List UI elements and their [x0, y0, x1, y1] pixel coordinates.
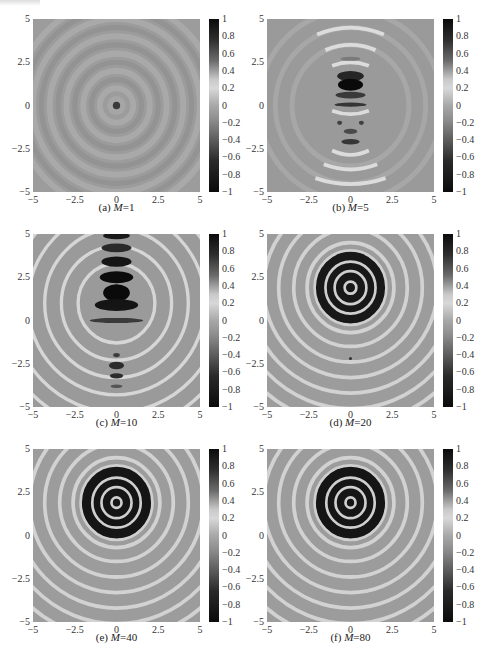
- y-tick-label: 2.5: [236, 487, 264, 497]
- colorbar-tick-label: −0.8: [456, 600, 474, 610]
- x-tick-label: −2.5: [60, 625, 90, 635]
- panel-e: (e) M=40 52.50−2.5−5−5−2.502.5510.80.60.…: [0, 430, 244, 645]
- y-tick-label: 0: [236, 316, 264, 326]
- x-tick-label: −2.5: [294, 195, 324, 205]
- colorbar-tick-label: 0.8: [222, 246, 235, 256]
- y-tick-label: 0: [2, 531, 30, 541]
- colorbar-tick-label: −0.4: [456, 565, 474, 575]
- y-tick-label: 5: [236, 14, 264, 24]
- y-tick-label: 5: [236, 444, 264, 454]
- x-tick-label: −2.5: [60, 195, 90, 205]
- colorbar-tick-label: 0.4: [456, 281, 469, 291]
- colorbar-tick-label: 0.4: [222, 281, 235, 291]
- y-tick-label: 5: [2, 444, 30, 454]
- colorbar-tick-label: 0.8: [456, 31, 469, 41]
- colorbar-tick-label: 0.6: [222, 49, 235, 59]
- x-tick-label: −5: [252, 625, 282, 635]
- colorbar-tick-label: 0.6: [222, 264, 235, 274]
- colorbar-tick-label: −0.2: [456, 548, 474, 558]
- colorbar-tick-label: 0.2: [222, 298, 235, 308]
- colorbar-tick-label: 0.8: [222, 461, 235, 471]
- colorbar-tick-label: −0.4: [456, 135, 474, 145]
- y-tick-label: 0: [2, 316, 30, 326]
- x-tick-label: 0: [102, 625, 132, 635]
- x-tick-label: −2.5: [60, 410, 90, 420]
- colorbar-tick-label: 0.8: [456, 246, 469, 256]
- colorbar-d: [443, 234, 453, 407]
- y-tick-label: −2.5: [236, 144, 264, 154]
- y-tick-label: 2.5: [236, 272, 264, 282]
- panel-b: (b) M=5 52.50−2.5−5−5−2.502.5510.80.60.4…: [234, 0, 478, 215]
- y-tick-label: 5: [2, 229, 30, 239]
- colorbar-tick-label: 1: [456, 14, 461, 24]
- colorbar-tick-label: 0.2: [456, 298, 469, 308]
- x-tick-label: 0: [102, 410, 132, 420]
- y-tick-label: 0: [2, 101, 30, 111]
- colorbar-tick-label: 0: [222, 316, 227, 326]
- colorbar-tick-label: 0.4: [456, 496, 469, 506]
- x-tick-label: −5: [252, 410, 282, 420]
- y-tick-label: −2.5: [236, 359, 264, 369]
- x-tick-label: 2.5: [377, 625, 407, 635]
- x-tick-label: 5: [185, 625, 215, 635]
- x-tick-label: −2.5: [294, 410, 324, 420]
- colorbar-tick-label: 1: [222, 229, 227, 239]
- colorbar-tick-label: −1: [222, 187, 233, 197]
- colorbar-tick-label: 0.2: [222, 83, 235, 93]
- colorbar-tick-label: 0.2: [222, 513, 235, 523]
- x-tick-label: 2.5: [377, 195, 407, 205]
- colorbar-tick-label: 1: [456, 229, 461, 239]
- y-tick-label: 2.5: [236, 57, 264, 67]
- panel-f: (f) M=80 52.50−2.5−5−5−2.502.5510.80.60.…: [234, 430, 478, 645]
- colorbar-f: [443, 449, 453, 622]
- colorbar-tick-label: 0: [456, 101, 461, 111]
- heatmap-b: [267, 19, 434, 192]
- x-tick-label: 0: [336, 625, 366, 635]
- panel-d: (d) M=20 52.50−2.5−5−5−2.502.5510.80.60.…: [234, 215, 478, 430]
- heatmap-e: [33, 449, 200, 622]
- colorbar-tick-label: −0.2: [456, 333, 474, 343]
- panel-c: (c) M=10 52.50−2.5−5−5−2.502.5510.80.60.…: [0, 215, 244, 430]
- colorbar-c: [209, 234, 219, 407]
- colorbar-tick-label: 0.4: [222, 496, 235, 506]
- colorbar-tick-label: 0: [222, 101, 227, 111]
- x-tick-label: −5: [18, 625, 48, 635]
- y-tick-label: 0: [236, 531, 264, 541]
- x-tick-label: −5: [18, 195, 48, 205]
- x-tick-label: −5: [252, 195, 282, 205]
- colorbar-tick-label: 0.6: [456, 49, 469, 59]
- colorbar-tick-label: 0.4: [456, 66, 469, 76]
- colorbar-tick-label: −1: [456, 187, 467, 197]
- x-tick-label: 5: [419, 410, 449, 420]
- y-tick-label: −2.5: [2, 359, 30, 369]
- x-tick-label: 2.5: [143, 625, 173, 635]
- colorbar-tick-label: 0: [222, 531, 227, 541]
- colorbar-tick-label: 0: [456, 531, 461, 541]
- heatmap-a: [33, 19, 200, 192]
- x-tick-label: 0: [102, 195, 132, 205]
- colorbar-tick-label: 0.8: [456, 461, 469, 471]
- colorbar-tick-label: −0.4: [456, 350, 474, 360]
- y-tick-label: 2.5: [2, 272, 30, 282]
- x-tick-label: 5: [185, 410, 215, 420]
- colorbar-e: [209, 449, 219, 622]
- colorbar-tick-label: −0.2: [456, 118, 474, 128]
- x-tick-label: 5: [419, 625, 449, 635]
- x-tick-label: −5: [18, 410, 48, 420]
- y-tick-label: 2.5: [2, 57, 30, 67]
- heatmap-f: [267, 449, 434, 622]
- heatmap-d: [267, 234, 434, 407]
- colorbar-tick-label: −1: [456, 402, 467, 412]
- y-tick-label: 5: [2, 14, 30, 24]
- colorbar-tick-label: 1: [222, 14, 227, 24]
- y-tick-label: −2.5: [236, 574, 264, 584]
- panel-a: (a) M=1 52.50−2.5−5−5−2.502.5510.80.60.4…: [0, 0, 244, 215]
- colorbar-tick-label: −0.6: [456, 367, 474, 377]
- y-tick-label: 5: [236, 229, 264, 239]
- colorbar-tick-label: −1: [222, 617, 233, 627]
- x-tick-label: 2.5: [143, 410, 173, 420]
- colorbar-tick-label: −1: [222, 402, 233, 412]
- colorbar-tick-label: 0.2: [456, 83, 469, 93]
- colorbar-a: [209, 19, 219, 192]
- colorbar-tick-label: 0: [456, 316, 461, 326]
